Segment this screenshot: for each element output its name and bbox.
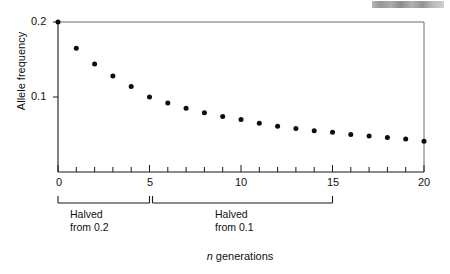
data-point [56, 20, 61, 25]
y-tick-label-0.2: 0.2 [31, 15, 46, 27]
annotation-halved-from-0.1-line1: Halved [215, 208, 254, 221]
data-point [403, 137, 408, 142]
data-point [312, 128, 317, 133]
x-tick-label-15: 15 [325, 176, 341, 188]
data-point [129, 84, 134, 89]
plot-frame [58, 22, 424, 172]
bracket-halved-from-0.2 [58, 196, 150, 203]
x-tick-label-5: 5 [144, 176, 156, 188]
data-point [92, 62, 97, 67]
data-point [220, 114, 225, 119]
annotation-halved-from-0.2: Halved from 0.2 [70, 208, 109, 234]
data-point [293, 126, 298, 131]
data-point [422, 139, 427, 144]
data-point [202, 110, 207, 115]
y-axis-title: Allele frequency [15, 23, 27, 119]
bracket-halved-from-0.1 [153, 196, 333, 203]
data-point [74, 46, 79, 51]
annotation-halved-from-0.1: Halved from 0.1 [215, 208, 254, 234]
x-tick-label-0: 0 [53, 176, 65, 188]
data-point [275, 124, 280, 129]
data-point [147, 95, 152, 100]
annotation-halved-from-0.2-line1: Halved [70, 208, 109, 221]
data-point [165, 101, 170, 106]
y-tick-label-0.1: 0.1 [31, 90, 46, 102]
figure-container: 0.2 0.1 Allele frequency 0 5 10 15 20 Ha… [0, 0, 450, 274]
annotation-halved-from-0.2-line2: from 0.2 [70, 221, 109, 234]
x-minor-ticks [58, 165, 424, 172]
x-tick-label-20: 20 [416, 176, 432, 188]
data-point [367, 134, 372, 139]
data-point [239, 117, 244, 122]
data-point [110, 74, 115, 79]
x-tick-label-10: 10 [233, 176, 249, 188]
data-point [348, 132, 353, 137]
data-point [184, 106, 189, 111]
data-point [385, 135, 390, 140]
annotation-halved-from-0.1-line2: from 0.1 [215, 221, 254, 234]
data-point [257, 121, 262, 126]
data-point-series [56, 20, 427, 144]
data-point [330, 130, 335, 135]
x-axis-title-rest: generations [213, 250, 274, 262]
x-axis-title: n generations [150, 250, 330, 262]
